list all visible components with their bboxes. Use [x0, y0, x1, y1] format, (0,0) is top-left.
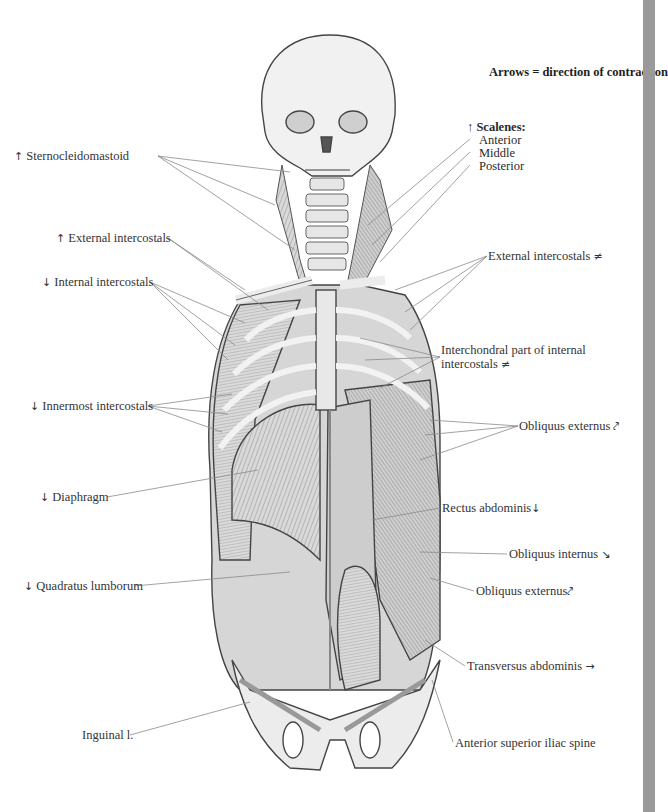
label-rectus-abdominis: Rectus abdominis↓	[442, 501, 540, 516]
label-innermost-intercostals: ↓ Innermost intercostals	[30, 399, 153, 414]
arrow-down-icon: ↓	[42, 276, 51, 289]
page-edge-strip	[643, 0, 655, 812]
label-transversus-abdominis: Transversus abdominis →	[467, 659, 595, 674]
arrow-down-icon: ↓	[30, 400, 39, 413]
arrow-up-icon: ↑	[56, 232, 65, 245]
label-internal-intercostals: ↓ Internal intercostals	[42, 275, 153, 290]
arrow-oblique-icon: ≠	[501, 358, 510, 371]
legend-title: Arrows = direction of contraction	[489, 65, 668, 80]
arrow-down-icon: ↓	[40, 491, 49, 504]
arrow-down-icon: ↓	[24, 580, 33, 593]
label-quadratus-lumborum: ↓ Quadratus lumborum	[24, 579, 143, 594]
skull	[262, 35, 396, 176]
label-diaphragm: ↓ Diaphragm	[40, 490, 109, 505]
arrow-right-icon: →	[585, 660, 594, 673]
label-obliquus-externus-lower: Obliquus externus⤤	[476, 584, 573, 599]
arrow-curved-up-icon: ⤤	[567, 585, 573, 598]
arrow-down-icon: ↓	[531, 502, 540, 515]
arrow-down-right-icon: ↘	[601, 548, 610, 561]
arrow-up-icon: ↑	[14, 150, 23, 163]
label-obliquus-internus: Obliquus internus ↘	[509, 547, 611, 562]
label-external-intercostals-left: ↑ External intercostals	[56, 231, 171, 246]
label-inguinal-ligament: Inguinal l.	[82, 728, 133, 742]
label-anterior-superior-iliac-spine: Anterior superior iliac spine	[455, 736, 596, 750]
torso	[209, 280, 440, 690]
arrow-oblique-icon: ≠	[594, 250, 603, 263]
label-external-intercostals-right: External intercostals ≠	[488, 249, 603, 264]
scalene-posterior: Posterior	[467, 160, 526, 173]
label-scalenes: ↑ Scalenes: Anterior Middle Posterior	[467, 121, 526, 173]
arrow-curved-up-icon: ⤤	[613, 420, 619, 433]
cervical-spine	[306, 178, 348, 270]
label-sternocleidomastoid: ↑ Sternocleidomastoid	[14, 149, 129, 164]
label-interchondral: Interchondral part of internal intercost…	[441, 343, 621, 372]
arrow-up-icon: ↑	[467, 120, 473, 134]
label-obliquus-externus-upper: Obliquus externus ⤤	[519, 419, 619, 434]
